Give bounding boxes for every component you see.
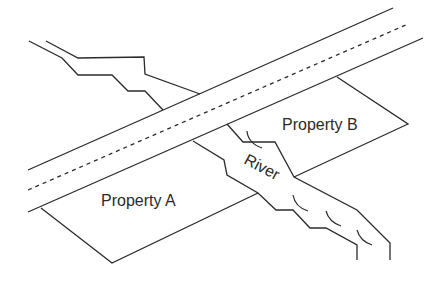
road-bottom-edge (28, 38, 423, 212)
river-upstream (29, 41, 200, 110)
river-downstream (193, 124, 390, 260)
road (28, 8, 423, 212)
property-b-label: Property B (282, 116, 358, 133)
road-center-line (28, 24, 408, 190)
river-ripple-icon (357, 230, 372, 245)
property-a-label: Property A (101, 192, 176, 209)
river-lower-bank-north (29, 41, 163, 110)
river-ripple-icon (326, 211, 341, 226)
river-ripple-icon (247, 131, 262, 148)
road-top-edge (28, 8, 393, 170)
property-river-road-diagram: Property A Property B River (0, 0, 446, 283)
river-ripple-icon (293, 195, 308, 211)
property-a: Property A (41, 192, 258, 263)
river-label: River (242, 151, 284, 184)
